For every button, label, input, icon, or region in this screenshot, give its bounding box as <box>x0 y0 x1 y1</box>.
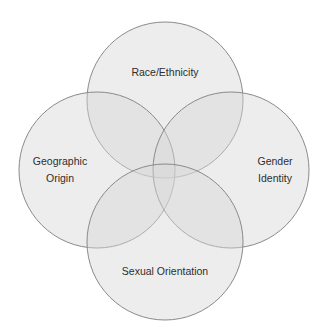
label-geographic-origin: Geographic Origin <box>22 153 98 187</box>
label-line: Identity <box>240 170 310 187</box>
label-gender-identity: Gender Identity <box>240 153 310 187</box>
label-sexual-orientation: Sexual Orientation <box>100 263 230 280</box>
label-line: Geographic <box>22 153 98 170</box>
label-line: Race/Ethnicity <box>115 64 215 81</box>
label-line: Origin <box>22 170 98 187</box>
venn-diagram: Race/Ethnicity Geographic Origin Gender … <box>0 0 326 336</box>
label-race-ethnicity: Race/Ethnicity <box>115 64 215 81</box>
label-line: Gender <box>240 153 310 170</box>
circle-sexual-orientation <box>87 164 243 320</box>
label-line: Sexual Orientation <box>100 263 230 280</box>
